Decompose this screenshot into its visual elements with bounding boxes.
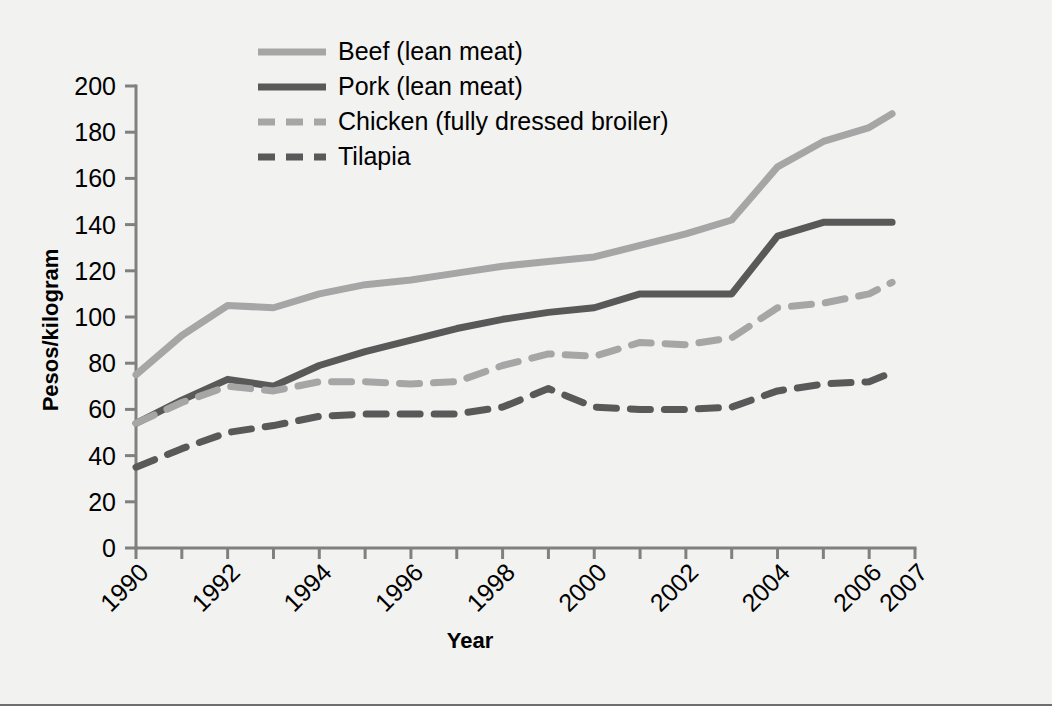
y-tick-label: 60 [88,395,116,423]
y-tick-label: 80 [88,349,116,377]
legend-label-2: Chicken (fully dressed broiler) [338,107,669,135]
x-axis-title: Year [447,628,494,653]
y-axis-title: Pesos/kilogram [38,249,63,412]
legend-label-3: Tilapia [338,142,411,170]
y-tick-label: 200 [74,72,116,100]
y-tick-label: 160 [74,164,116,192]
legend-label-0: Beef (lean meat) [338,37,523,65]
y-tick-label: 120 [74,257,116,285]
y-tick-label: 0 [102,534,116,562]
price-trend-line-chart: Beef (lean meat)Pork (lean meat)Chicken … [0,0,1052,719]
y-tick-label: 20 [88,488,116,516]
y-tick-label: 100 [74,303,116,331]
page-bottom-strip [0,706,1052,719]
chart-figure: Beef (lean meat)Pork (lean meat)Chicken … [0,0,1052,719]
y-tick-label: 180 [74,118,116,146]
y-tick-label: 140 [74,211,116,239]
y-tick-label: 40 [88,442,116,470]
legend-label-1: Pork (lean meat) [338,72,523,100]
